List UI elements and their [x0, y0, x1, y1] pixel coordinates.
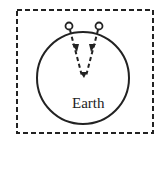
- arrowhead-center-icon: [80, 72, 87, 78]
- earth-label: Earth: [72, 95, 105, 111]
- force-arrow-right: [86, 30, 98, 76]
- object-right: [96, 23, 103, 30]
- object-left: [66, 23, 73, 30]
- earth-diagram: Earth: [0, 0, 165, 177]
- force-arrow-left: [70, 30, 82, 76]
